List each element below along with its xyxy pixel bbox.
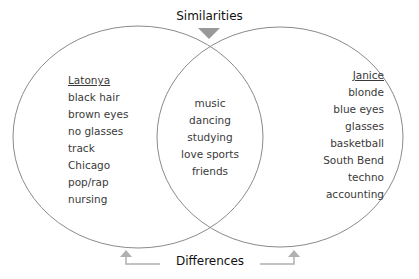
intersection-item: friends [150,163,270,180]
left-set-list: Latonya black hair brown eyes no glasses… [68,72,128,208]
intersection-item: dancing [150,112,270,129]
left-set-item: nursing [68,191,128,208]
left-set-item: pop/rap [68,174,128,191]
intersection-item: music [150,95,270,112]
right-set-item: South Bend [323,152,384,169]
right-set-item: blue eyes [323,101,384,118]
left-set-title: Latonya [68,72,128,89]
similarities-label: Similarities [0,9,419,23]
left-arrowhead-icon [120,250,132,257]
right-set-item: blonde [323,84,384,101]
right-arrowhead-icon [288,250,300,257]
right-set-item: techno [323,169,384,186]
right-set-item: glasses [323,118,384,135]
intersection-list: music dancing studying love sports frien… [150,95,270,180]
intersection-item: studying [150,129,270,146]
similarities-arrow-icon [198,28,220,39]
left-set-item: track [68,140,128,157]
left-set-item: Chicago [68,157,128,174]
left-set-item: brown eyes [68,106,128,123]
intersection-item: love sports [150,146,270,163]
right-set-item: basketball [323,135,384,152]
left-set-item: no glasses [68,123,128,140]
right-set-title: Janice [323,67,384,84]
left-set-item: black hair [68,89,128,106]
right-set-item: accounting [323,186,384,203]
right-set-list: Janice blonde blue eyes glasses basketba… [323,67,384,203]
differences-label: Differences [160,254,260,268]
